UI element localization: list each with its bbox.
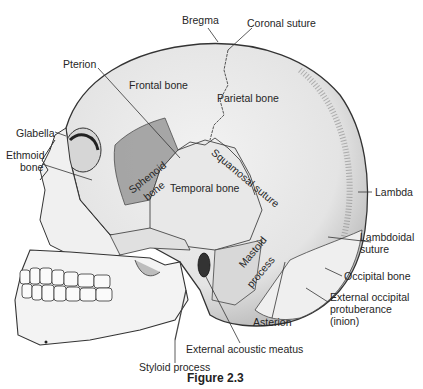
label-lambda: Lambda (375, 186, 413, 198)
label-frontal-bone: Frontal bone (129, 79, 188, 91)
label-temporal-bone: Temporal bone (170, 182, 239, 194)
label-ext-occ-1: External occipital (330, 291, 409, 303)
label-ext-occ-2: protuberance (330, 303, 392, 315)
label-ext-occ-3: (inion) (330, 315, 359, 327)
label-bregma: Bregma (182, 14, 219, 26)
label-lambdoidal-2: suture (360, 243, 389, 255)
label-lambdoidal-1: Lambdoidal (360, 231, 414, 243)
label-glabella: Glabella (16, 127, 55, 139)
label-ethmoid-1: Ethmoid (6, 149, 45, 161)
figure-caption: Figure 2.3 (187, 371, 244, 385)
label-ethmoid-2: bone (20, 161, 43, 173)
label-external-acoustic-meatus: External acoustic meatus (186, 343, 303, 355)
label-parietal-bone: Parietal bone (217, 92, 279, 104)
label-asterion: Asterion (253, 316, 292, 328)
label-occipital-bone: Occipital bone (344, 270, 411, 282)
label-pterion: Pterion (63, 58, 96, 70)
label-coronal-suture: Coronal suture (247, 17, 316, 29)
